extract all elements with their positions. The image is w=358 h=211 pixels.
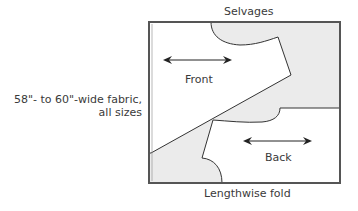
- fabric-width-line1: 58"- to 60"-wide fabric,: [8, 93, 142, 106]
- selvages-label: Selvages: [224, 5, 274, 18]
- fabric-width-line2: all sizes: [8, 106, 142, 119]
- lengthwise-fold-label: Lengthwise fold: [204, 187, 291, 200]
- back-piece-label: Back: [265, 151, 292, 164]
- front-piece-label: Front: [185, 73, 213, 86]
- pattern-layout-diagram: Selvages Front Back Lengthwise fold 58"-…: [0, 0, 358, 211]
- fabric-width-label: 58"- to 60"-wide fabric, all sizes: [8, 93, 142, 119]
